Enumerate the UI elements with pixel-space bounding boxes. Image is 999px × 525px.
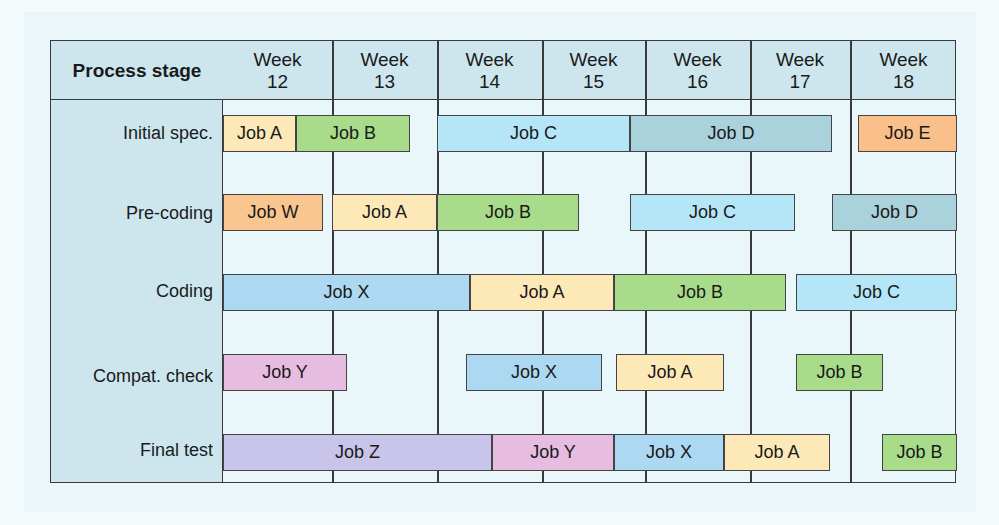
week-header-16: Week16 [645, 41, 750, 100]
week-label: Week [253, 49, 301, 71]
week-gridline [332, 41, 334, 482]
task-bar-job-x: Job X [223, 274, 470, 311]
week-number: 15 [583, 71, 604, 93]
week-header-17: Week17 [750, 41, 850, 100]
stage-label: Initial spec. [51, 123, 213, 144]
stage-label: Coding [51, 281, 213, 302]
week-label: Week [465, 49, 513, 71]
week-gridline [750, 41, 752, 482]
task-bar-job-c: Job C [437, 115, 630, 152]
stage-label: Compat. check [51, 366, 213, 387]
week-gridline [645, 41, 647, 482]
week-label: Week [360, 49, 408, 71]
week-gridline [437, 41, 439, 482]
task-bar-job-x: Job X [466, 354, 602, 391]
task-bar-job-a: Job A [223, 115, 296, 152]
task-bar-job-d: Job D [832, 194, 957, 231]
task-bar-job-y: Job Y [223, 354, 347, 391]
week-number: 12 [267, 71, 288, 93]
stage-label: Final test [51, 440, 213, 461]
week-header-13: Week13 [332, 41, 437, 100]
week-label: Week [569, 49, 617, 71]
week-header-18: Week18 [850, 41, 957, 100]
week-header-12: Week12 [223, 41, 332, 100]
week-label: Week [673, 49, 721, 71]
task-bar-job-d: Job D [630, 115, 832, 152]
task-bar-job-a: Job A [616, 354, 724, 391]
task-bar-job-b: Job B [296, 115, 410, 152]
week-header-14: Week14 [437, 41, 542, 100]
task-bar-job-c: Job C [796, 274, 957, 311]
week-gridline [542, 41, 544, 482]
task-bar-job-x: Job X [614, 434, 724, 471]
task-bar-job-b: Job B [614, 274, 786, 311]
week-number: 13 [374, 71, 395, 93]
stage-label-column [51, 41, 223, 482]
week-label: Week [776, 49, 824, 71]
task-bar-job-a: Job A [724, 434, 830, 471]
task-bar-job-w: Job W [223, 194, 323, 231]
task-bar-job-b: Job B [882, 434, 957, 471]
task-bar-job-e: Job E [858, 115, 957, 152]
task-bar-job-c: Job C [630, 194, 795, 231]
task-bar-job-b: Job B [796, 354, 883, 391]
week-header-15: Week15 [542, 41, 645, 100]
week-gridline [850, 41, 852, 482]
task-bar-job-b: Job B [437, 194, 579, 231]
stage-label: Pre-coding [51, 203, 213, 224]
week-number: 16 [687, 71, 708, 93]
week-number: 17 [789, 71, 810, 93]
task-bar-job-a: Job A [470, 274, 614, 311]
task-bar-job-z: Job Z [223, 434, 492, 471]
gantt-chart: Process stage Week12Week13Week14Week15We… [50, 40, 956, 483]
task-bar-job-y: Job Y [492, 434, 614, 471]
week-number: 14 [479, 71, 500, 93]
process-stage-header: Process stage [51, 41, 223, 100]
week-number: 18 [893, 71, 914, 93]
task-bar-job-a: Job A [332, 194, 437, 231]
week-label: Week [879, 49, 927, 71]
